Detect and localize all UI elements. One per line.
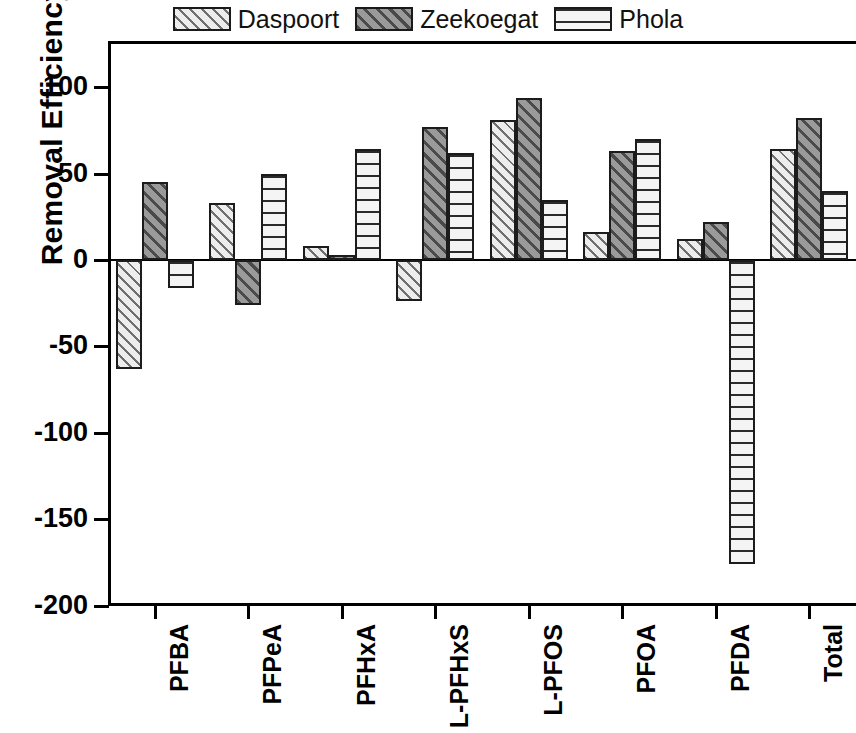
x-axis-line — [108, 603, 856, 606]
bar-phola-l-pfos — [542, 200, 568, 260]
bar-zeekoegat-pfda — [703, 222, 729, 260]
bar-zeekoegat-pfoa — [609, 151, 635, 260]
x-axis-tick-label: PFBA — [167, 624, 192, 692]
x-axis-tick-label: PFPeA — [260, 624, 285, 705]
legend-label-phola: Phola — [619, 7, 683, 32]
bar-phola-pfba — [168, 260, 194, 288]
legend-swatch-phola-icon — [554, 7, 612, 31]
x-axis-tick-label: Total — [821, 624, 846, 682]
x-axis-tick-label: PFHxA — [354, 624, 379, 706]
bar-daspoort-pfoa — [583, 232, 609, 260]
legend-label-daspoort: Daspoort — [238, 7, 339, 32]
y-axis-title: Removal Efficiency (%) — [35, 0, 69, 377]
legend-label-zeekoegat: Zeekoegat — [420, 7, 538, 32]
bar-phola-pfhxa — [355, 149, 381, 260]
bar-phola-total — [822, 191, 848, 260]
bar-phola-pfpea — [261, 174, 287, 260]
legend-item-zeekoegat: Zeekoegat — [355, 7, 538, 32]
x-axis-tick — [154, 605, 157, 619]
y-axis-tick-label: -150 — [0, 505, 88, 532]
x-axis-tick — [434, 605, 437, 619]
bar-zeekoegat-pfpea — [235, 260, 261, 305]
x-axis-tick-label: PFOA — [634, 624, 659, 693]
y-axis-tick — [94, 518, 109, 521]
y-axis-tick-label: 0 — [0, 246, 88, 273]
y-axis-tick-label: 50 — [0, 160, 88, 187]
bar-daspoort-l-pfos — [490, 120, 516, 260]
y-axis-tick — [94, 86, 109, 89]
bar-daspoort-total — [770, 149, 796, 260]
bar-daspoort-l-pfhxs — [396, 260, 422, 301]
y-axis-tick — [94, 432, 109, 435]
bar-zeekoegat-total — [796, 118, 822, 260]
y-axis-tick-label: -50 — [0, 332, 88, 359]
legend-item-daspoort: Daspoort — [173, 7, 339, 32]
x-axis-tick — [341, 605, 344, 619]
legend-item-phola: Phola — [554, 7, 683, 32]
x-axis-tick — [528, 605, 531, 619]
y-axis-tick-label: -100 — [0, 419, 88, 446]
legend-swatch-daspoort-icon — [173, 7, 231, 31]
bar-zeekoegat-pfhxa — [329, 255, 355, 260]
legend-swatch-zeekoegat-icon — [355, 7, 413, 31]
chart-legend: Daspoort Zeekoegat Phola — [0, 0, 856, 38]
bar-daspoort-pfhxa — [303, 246, 329, 260]
x-axis-tick-label: L-PFHxS — [447, 624, 472, 728]
y-axis-tick-label: 100 — [0, 73, 88, 100]
x-axis-tick — [247, 605, 250, 619]
bar-phola-pfoa — [635, 139, 661, 260]
x-axis-tick-label: PFDA — [728, 624, 753, 692]
y-axis-tick — [94, 259, 109, 262]
bar-zeekoegat-l-pfos — [516, 98, 542, 260]
bar-daspoort-pfba — [116, 260, 142, 369]
x-axis-tick-label: L-PFOS — [541, 624, 566, 716]
y-axis-tick — [94, 345, 109, 348]
bar-daspoort-pfda — [677, 239, 703, 260]
y-axis-tick-label: -200 — [0, 592, 88, 619]
bar-zeekoegat-pfba — [142, 182, 168, 260]
bar-zeekoegat-l-pfhxs — [422, 127, 448, 260]
x-axis-tick — [715, 605, 718, 619]
bar-daspoort-pfpea — [209, 203, 235, 260]
y-axis-tick — [94, 605, 109, 608]
bar-phola-pfda — [729, 260, 755, 564]
bar-phola-l-pfhxs — [448, 153, 474, 260]
x-axis-tick — [621, 605, 624, 619]
y-axis-tick — [94, 173, 109, 176]
x-axis-tick — [808, 605, 811, 619]
